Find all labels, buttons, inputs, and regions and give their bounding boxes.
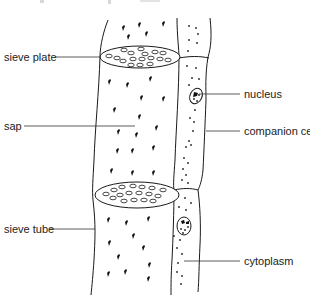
lower-sieve-plate — [95, 182, 179, 208]
upper-sieve-plate — [100, 46, 180, 68]
label-sieve-tube: sieve tube — [4, 223, 54, 235]
label-companion-cell: companion cell — [244, 125, 310, 137]
cropped-heading-fragment — [40, 0, 160, 4]
label-sap: sap — [4, 120, 22, 132]
companion-cell-right-wall — [198, 18, 211, 292]
companion-cell-upper-junction — [179, 57, 209, 59]
cytoplasm-dots — [173, 25, 200, 285]
phloem-diagram: sieve plate sap nucleus companion cell s… — [0, 0, 310, 295]
nucleus-lower — [177, 217, 191, 235]
label-cytoplasm: cytoplasm — [244, 255, 294, 267]
label-nucleus: nucleus — [244, 88, 282, 100]
nucleus-upper — [187, 86, 205, 106]
companion-cell-lower-junction — [174, 189, 198, 191]
label-sieve-plate: sieve plate — [4, 51, 57, 63]
